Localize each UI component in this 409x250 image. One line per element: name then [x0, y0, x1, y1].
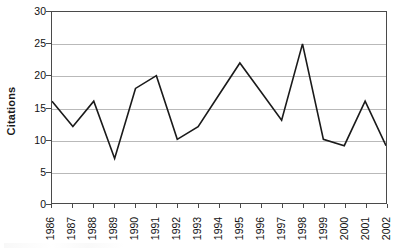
y-tick-label-15: 15: [22, 103, 46, 113]
x-tick-label-1994: 1994: [213, 210, 225, 246]
x-tick-mark-2002: [387, 204, 388, 208]
plot-area: [51, 11, 387, 204]
x-tick-label-1998: 1998: [297, 210, 309, 246]
x-tick-mark-1987: [72, 204, 73, 208]
x-tick-label-text: 1999: [319, 217, 330, 240]
x-tick-label-text: 1987: [67, 217, 78, 240]
x-tick-label-text: 2002: [382, 217, 393, 240]
x-tick-mark-1996: [261, 204, 262, 208]
x-tick-label-1986: 1986: [45, 210, 57, 246]
x-tick-label-1995: 1995: [234, 210, 246, 246]
x-tick-label-1989: 1989: [108, 210, 120, 246]
x-tick-mark-1989: [114, 204, 115, 208]
x-tick-label-text: 1994: [214, 217, 225, 240]
x-tick-mark-1991: [156, 204, 157, 208]
x-tick-label-text: 1989: [109, 217, 120, 240]
x-tick-mark-1999: [324, 204, 325, 208]
x-tick-label-1992: 1992: [171, 210, 183, 246]
y-tick-label-25: 25: [22, 38, 46, 48]
x-tick-label-text: 1993: [193, 217, 204, 240]
x-tick-label-text: 1997: [277, 217, 288, 240]
x-tick-label-1991: 1991: [150, 210, 162, 246]
x-tick-label-text: 1986: [46, 217, 57, 240]
x-tick-label-2001: 2001: [360, 210, 372, 246]
x-tick-label-1999: 1999: [318, 210, 330, 246]
x-tick-label-1988: 1988: [87, 210, 99, 246]
y-axis-title: Citations: [2, 12, 20, 210]
x-tick-label-1996: 1996: [255, 210, 267, 246]
x-tick-label-1987: 1987: [66, 210, 78, 246]
x-tick-label-2000: 2000: [339, 210, 351, 246]
y-axis-title-text: Citations: [5, 87, 17, 136]
x-tick-mark-2001: [366, 204, 367, 208]
x-tick-mark-1990: [135, 204, 136, 208]
y-tick-label-20: 20: [22, 70, 46, 80]
citations-series-line: [52, 12, 386, 203]
x-tick-mark-1994: [219, 204, 220, 208]
citations-line-chart: Citations 051015202530 19861987198819891…: [0, 0, 409, 250]
x-tick-mark-1997: [282, 204, 283, 208]
x-tick-label-text: 1995: [235, 217, 246, 240]
y-tick-label-5: 5: [22, 167, 46, 177]
x-tick-label-1990: 1990: [129, 210, 141, 246]
x-tick-label-1997: 1997: [276, 210, 288, 246]
x-tick-label-text: 1996: [256, 217, 267, 240]
x-tick-label-1993: 1993: [192, 210, 204, 246]
scan-artifact: [4, 243, 124, 248]
y-axis-tick-labels: 051015202530: [22, 0, 46, 250]
x-tick-mark-1995: [240, 204, 241, 208]
x-tick-label-2002: 2002: [381, 210, 393, 246]
x-tick-mark-1993: [198, 204, 199, 208]
x-tick-label-text: 1990: [130, 217, 141, 240]
x-tick-mark-2000: [345, 204, 346, 208]
x-tick-label-text: 2001: [361, 217, 372, 240]
x-tick-mark-1998: [303, 204, 304, 208]
x-tick-label-text: 1991: [151, 217, 162, 240]
y-tick-label-0: 0: [22, 199, 46, 209]
x-tick-mark-1988: [93, 204, 94, 208]
x-tick-label-text: 1992: [172, 217, 183, 240]
x-tick-mark-1992: [177, 204, 178, 208]
x-tick-label-text: 2000: [340, 217, 351, 240]
x-tick-mark-1986: [51, 204, 52, 208]
y-tick-label-30: 30: [22, 6, 46, 16]
y-tick-label-10: 10: [22, 135, 46, 145]
x-tick-label-text: 1988: [88, 217, 99, 240]
x-tick-label-text: 1998: [298, 217, 309, 240]
x-axis-tick-marks: [51, 204, 387, 209]
